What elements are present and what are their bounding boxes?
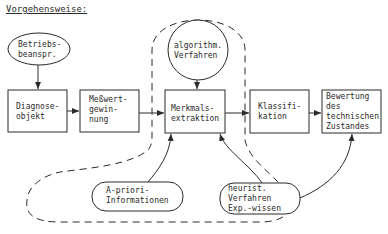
klassifikation-label: Klassifi- kation xyxy=(258,102,301,122)
diagnoseobjekt-label: Diagnose- objekt xyxy=(16,102,59,122)
edge-heurist-bewertung xyxy=(300,134,352,198)
heurist-label: heurist. Verfahren Exp.-wissen xyxy=(228,184,281,214)
betriebsbeanspr-label: Betriebs- beanspr. xyxy=(18,40,61,60)
messwertgewinnung-label: Meßwert- gewin- nung xyxy=(89,95,128,125)
merkmalsextraktion-label: Merkmals- extraktion xyxy=(171,104,219,124)
algorithm-label: algorithm. Verfahren xyxy=(174,41,222,61)
edge-apriori-merkmal xyxy=(148,134,171,182)
apriori-label: A-priori- Informationen xyxy=(106,186,169,206)
bewertung-label: Bewertung des technischen Zustandes xyxy=(326,92,379,132)
edge-heurist-merkmal xyxy=(220,134,262,183)
diagram-title: Vorgehensweise: xyxy=(6,4,87,14)
